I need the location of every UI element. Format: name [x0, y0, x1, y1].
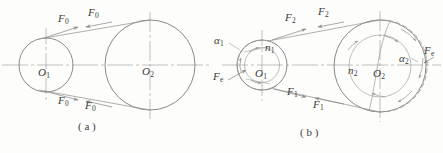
panel-b-force-f1-left-label: F1 — [287, 86, 298, 98]
panel-b-o2-rotation-arrow-right — [419, 58, 423, 78]
panel-a-belt-upper — [39, 20, 150, 39]
panel-a-wheel-o1-label: O1 — [38, 67, 50, 79]
panel-b-force-f2-left-label: F2 — [285, 12, 296, 24]
panel-b-o2-slip-boundary — [369, 21, 390, 111]
panel-a-force-f0-upper-right-label: F0 — [88, 7, 99, 19]
panel-b-o1-rotation-arrow-left — [240, 58, 242, 73]
panel-a-force-f0-upper-left-label: F0 — [58, 13, 69, 25]
panel-b-alpha2-leader — [411, 58, 418, 62]
panel-b-force-f1-right-label: F1 — [313, 99, 324, 111]
panel-b-speed-n1-label: n1 — [265, 42, 275, 54]
panel-a-wheel-o2-label: O2 — [142, 66, 154, 78]
panel-a-force-f0-lower-left-label: F0 — [58, 95, 69, 107]
panel-b-force-fe-right-label: Fe — [424, 45, 434, 57]
panel-b-force-fe-left-label: Fe — [213, 71, 223, 83]
panel-b-alpha1-leader — [229, 43, 240, 50]
panel-a-force-f0-upper-left-arrow[interactable] — [44, 27, 78, 38]
caption-a: ( a ) — [78, 120, 96, 132]
panel-a-force-f0-upper-right-arrow[interactable] — [86, 22, 112, 27]
caption-b: ( b ) — [300, 126, 318, 138]
panel-b-alpha1-label: α1 — [214, 35, 224, 47]
panel-a-force-f0-lower-right-label: F0 — [85, 100, 96, 112]
panel-a-group — [2, 12, 212, 120]
panel-b-speed-n2-label: n2 — [348, 65, 358, 77]
panel-b-alpha2-label: α2 — [399, 53, 409, 65]
panel-b-wrap-arc-alpha2 — [365, 20, 427, 112]
panel-b-force-f2-right-arrow[interactable] — [318, 22, 344, 27]
panel-b-wheel-o2-label: O2 — [373, 68, 385, 80]
panel-b-wheel-o1-label: O1 — [255, 68, 267, 80]
figure-root: O1 O2 F0 F0 F0 F0 O1 O2 n1 n2 α1 α2 F2 F… — [0, 0, 443, 153]
panel-b-force-fe-left-arrow[interactable] — [228, 70, 246, 80]
panel-b-force-f2-right-label: F2 — [318, 6, 329, 18]
